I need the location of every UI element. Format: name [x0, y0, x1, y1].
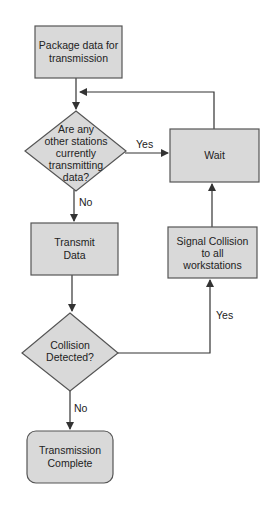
node-collision-line-2: Detected? [46, 351, 94, 363]
node-signal-line-2: to all [201, 247, 223, 259]
edge-label-collision-yes: Yes [216, 309, 233, 321]
edge-label-collision-no: No [74, 402, 88, 414]
node-complete-line-2: Complete [48, 457, 93, 469]
node-package-data: Package data for transmission [35, 26, 122, 78]
node-transmit-line-1: Transmit [54, 236, 95, 248]
node-complete-line-1: Transmission [39, 444, 101, 456]
node-signal-line-3: workstations [182, 259, 241, 271]
node-package-line-1: Package data for [39, 39, 119, 51]
node-transmit-line-2: Data [63, 249, 85, 261]
node-signal-collision: Signal Collision to all workstations [168, 227, 257, 278]
node-transmit-data: Transmit Data [31, 223, 118, 275]
node-stations-transmitting-decision: Are any other stations currently transmi… [25, 111, 126, 191]
node-package-line-2: transmission [49, 52, 108, 64]
edge-label-check-yes: Yes [136, 138, 153, 150]
node-collision-line-1: Collision [50, 339, 90, 351]
node-check-line-4: transmitting [49, 159, 103, 171]
flowchart-canvas: Yes No Yes No Package data for transmiss… [0, 0, 271, 506]
edge-label-check-no: No [79, 196, 93, 208]
node-check-line-1: Are any [58, 123, 95, 135]
node-check-line-2: other stations [44, 135, 107, 147]
node-transmission-complete: Transmission Complete [27, 431, 113, 483]
node-wait: Wait [170, 129, 259, 182]
node-wait-line-1: Wait [204, 149, 225, 161]
node-check-line-5: data? [63, 171, 89, 183]
node-check-line-3: currently [56, 147, 97, 159]
node-signal-line-1: Signal Collision [177, 235, 249, 247]
edge-wait-to-check [80, 92, 214, 129]
edge-collision-yes-to-signal [118, 280, 210, 353]
node-collision-detected-decision: Collision Detected? [22, 313, 118, 391]
